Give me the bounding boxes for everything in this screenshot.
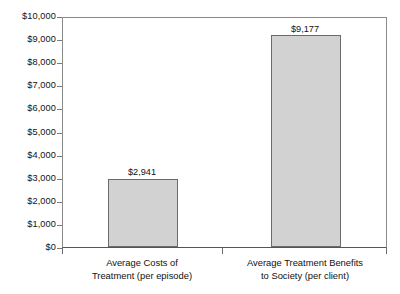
y-tick-label-6000: $6,000 [0, 103, 56, 113]
category-label-average-costs: Average Costs of Treatment (per episode) [67, 256, 217, 282]
y-tick-label-7000: $7,000 [0, 80, 56, 90]
y-tick-label-2000: $2,000 [0, 196, 56, 206]
category-label-line-2: to Society (per client) [225, 269, 385, 282]
y-axis-tick-labels: $10,000 $9,000 $8,000 $7,000 $6,000 $5,0… [0, 11, 56, 255]
category-label-average-benefits: Average Treatment Benefits to Society (p… [225, 256, 385, 282]
bar-value-label-average-costs: $2,941 [107, 167, 177, 178]
y-tick-label-0: $0 [0, 242, 56, 252]
y-tick-label-9000: $9,000 [0, 34, 56, 44]
plot-area [62, 17, 387, 248]
category-label-line-2: Treatment (per episode) [67, 269, 217, 282]
y-tick-label-5000: $5,000 [0, 127, 56, 137]
category-label-line-1: Average Costs of [67, 256, 217, 269]
x-axis-right-end-tick [386, 248, 387, 254]
bar-value-label-average-benefits: $9,177 [270, 24, 340, 35]
category-label-line-1: Average Treatment Benefits [225, 256, 385, 269]
x-axis-category-separator-tick [222, 248, 223, 254]
y-tick-label-8000: $8,000 [0, 57, 56, 67]
y-tick-label-10000: $10,000 [0, 11, 56, 21]
bar-chart-figure: $10,000 $9,000 $8,000 $7,000 $6,000 $5,0… [0, 0, 400, 294]
bar-average-treatment-benefits-to-society[interactable] [271, 35, 341, 247]
bar-average-costs-of-treatment[interactable] [108, 179, 178, 247]
x-axis-left-end-tick [62, 248, 63, 254]
y-tick-label-1000: $1,000 [0, 219, 56, 229]
y-tick-label-4000: $4,000 [0, 150, 56, 160]
y-tick-label-3000: $3,000 [0, 173, 56, 183]
